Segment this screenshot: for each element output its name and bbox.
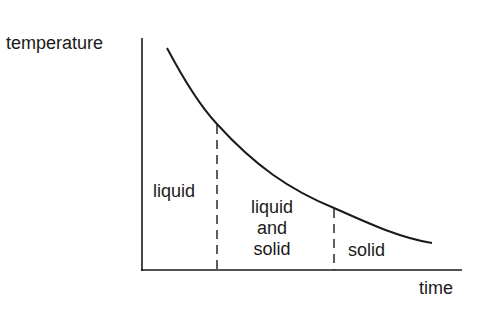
region-label-liquid-and-solid: liquid and solid: [240, 197, 304, 260]
region-label-line: liquid: [240, 197, 304, 218]
x-axis-label: time: [419, 278, 453, 299]
region-label-line: and: [240, 218, 304, 239]
region-label-solid: solid: [348, 240, 385, 261]
region-label-line: solid: [240, 239, 304, 260]
y-axis-label: temperature: [6, 33, 103, 54]
region-label-liquid: liquid: [153, 181, 195, 202]
